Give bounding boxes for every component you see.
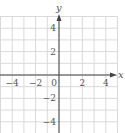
x-tick-label: 2 [80,78,86,88]
y-tick-label: −4 [43,117,57,127]
x-tick-label: −4 [6,78,20,88]
y-axis-label: y [55,2,62,13]
x-tick-label: 4 [103,78,109,88]
x-axis-label: x [118,69,124,80]
y-axis-arrow-icon [57,14,62,21]
x-tick-label: −2 [29,78,42,88]
y-tick-label: −2 [43,93,56,103]
x-tick-label: 0 [51,78,57,88]
coordinate-plane: x y −4−2024 42−2−4 [0,0,125,133]
y-tick-label: 4 [50,23,56,33]
x-axis-arrow-icon [110,73,117,78]
y-tick-label: 2 [50,47,56,57]
